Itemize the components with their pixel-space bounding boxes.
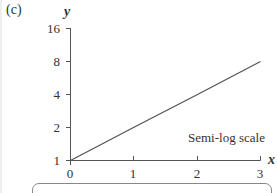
scale-annotation: Semi-log scale [188, 131, 265, 144]
plot-area [0, 0, 277, 193]
data-line [71, 62, 261, 161]
caption-box [32, 183, 272, 193]
